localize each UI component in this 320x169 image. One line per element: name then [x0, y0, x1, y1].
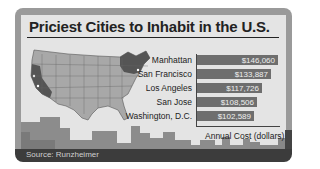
bar-value: $117,726: [191, 84, 259, 93]
category-label: Washington, D.C.: [122, 111, 192, 121]
title-underline: [27, 37, 279, 38]
bar-value: $102,589: [183, 112, 251, 121]
category-label: Los Angeles: [122, 83, 192, 93]
bar-value: $146,060: [207, 56, 275, 65]
category-label: San Jose: [122, 97, 192, 107]
x-axis: [196, 126, 280, 127]
chart-title: Priciest Cities to Inhabit in the U.S.: [29, 18, 270, 35]
x-axis-label: Annual Cost (dollars): [205, 131, 284, 141]
bar-value: $108,506: [186, 98, 254, 107]
category-label: Manhattan: [122, 55, 192, 65]
bar-value: $133,887: [200, 70, 268, 79]
category-label: San Francisco: [122, 69, 192, 79]
source-text: Source: Runzheimer: [26, 150, 99, 159]
